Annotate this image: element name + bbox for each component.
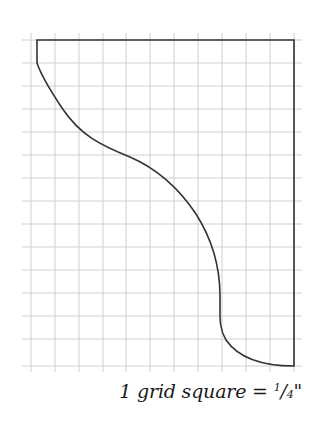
caption-prefix: 1 grid square = [119,380,273,402]
inch-mark: " [293,380,302,402]
scale-fraction: 1/4 [274,380,294,402]
pattern-outline [37,40,294,366]
grid-pattern-diagram [0,0,330,380]
grid-lines [22,33,302,372]
scale-caption: 1 grid square = 1/4" [0,380,302,402]
